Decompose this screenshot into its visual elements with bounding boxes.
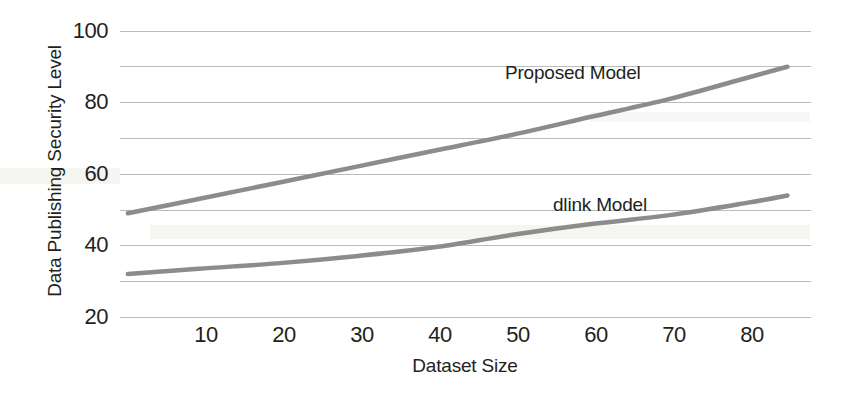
x-tick-label-60: 60	[566, 322, 626, 348]
gridline-20	[120, 317, 811, 318]
y-tick-label-60: 60	[48, 161, 108, 187]
line-chart-figure: Data Publishing Security Level 100 80 60…	[0, 0, 847, 397]
series-plot-svg	[120, 31, 811, 317]
x-tick-label-10: 10	[176, 322, 236, 348]
x-tick-label-50: 50	[488, 322, 548, 348]
x-tick-label-80: 80	[722, 322, 782, 348]
x-tick-label-30: 30	[332, 322, 392, 348]
y-tick-label-40: 40	[48, 232, 108, 258]
plot-area	[120, 31, 811, 317]
y-tick-label-80: 80	[48, 89, 108, 115]
series-line-proposed-model	[128, 67, 788, 214]
y-tick-label-100: 100	[48, 18, 108, 44]
series-line-dlink-model	[128, 195, 788, 274]
x-tick-label-20: 20	[254, 322, 314, 348]
x-tick-label-70: 70	[644, 322, 704, 348]
x-axis-title: Dataset Size	[120, 355, 810, 377]
series-label-proposed-model: Proposed Model	[505, 62, 641, 84]
x-tick-label-40: 40	[410, 322, 470, 348]
y-tick-label-20: 20	[48, 304, 108, 330]
series-label-dlink-model: dlink Model	[553, 194, 647, 216]
